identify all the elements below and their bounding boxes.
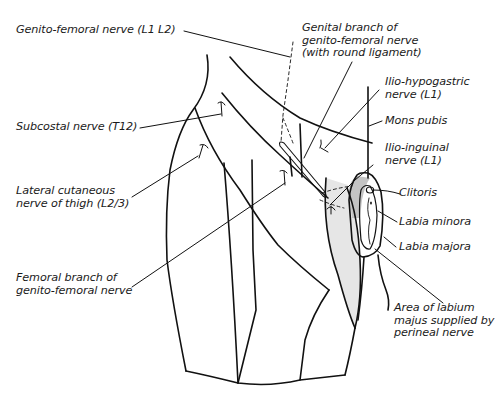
- label-clitoris: Clitoris: [399, 187, 437, 200]
- leader-mons-pubis: [369, 121, 382, 126]
- label-genito-femoral-nerve: Genito-femoral nerve (L1 L2): [16, 24, 176, 37]
- leader-genital-branch: [304, 62, 352, 158]
- label-femoral-branch: Femoral branch of genito-femoral nerve: [16, 272, 132, 297]
- leader-labia-minora: [378, 211, 397, 222]
- leader-perineal-area: [375, 249, 443, 303]
- anatomy-diagram: Genito-femoral nerve (L1 L2) Genital bra…: [0, 0, 499, 402]
- label-labia-majora: Labia majora: [399, 241, 471, 254]
- label-ilio-hypogastric-nerve: Ilio-hypogastric nerve (L1): [385, 76, 470, 101]
- label-subcostal-nerve: Subcostal nerve (T12): [16, 121, 137, 134]
- dermatome-line-1: [238, 160, 256, 383]
- label-perineal-area: Area of labium majus supplied by perinea…: [394, 302, 494, 340]
- dermatome-line-2: [224, 163, 238, 383]
- label-ilio-inguinal-nerve: Ilio-inguinal nerve (L1): [385, 142, 449, 167]
- femoral-branch-marker: [280, 170, 287, 185]
- inguinal-line: [222, 93, 328, 198]
- leader-femoral-branch: [132, 183, 285, 287]
- inner-thigh-line: [300, 290, 329, 380]
- hip-outline-left: [166, 55, 208, 371]
- round-ligament: [280, 142, 327, 197]
- label-lateral-cutaneous-nerve: Lateral cutaneous nerve of thigh (L2/3): [16, 185, 129, 210]
- label-genital-branch: Genital branch of genito-femoral nerve (…: [302, 22, 422, 60]
- thigh-bottom-outline: [186, 371, 345, 384]
- leader-clitoris: [373, 190, 400, 194]
- inner-thigh-line-2: [345, 328, 355, 375]
- leader-genito-femoral: [184, 31, 290, 57]
- label-mons-pubis: Mons pubis: [385, 115, 447, 128]
- leader-subcostal: [140, 114, 221, 128]
- leader-lateral-cutaneous: [132, 156, 198, 197]
- label-labia-minora: Labia minora: [399, 216, 471, 229]
- lateral-cutaneous-marker: [199, 144, 208, 158]
- leader-labia-majora: [384, 237, 396, 247]
- genital-branch-dashed-path: [281, 42, 293, 142]
